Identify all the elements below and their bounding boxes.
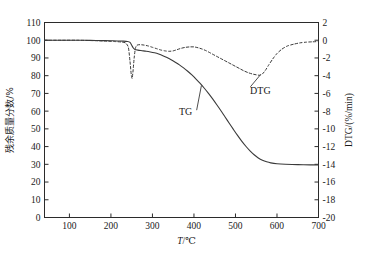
y-right-tick-label: -2 xyxy=(323,53,331,63)
y-axis-right-ticks xyxy=(315,23,319,218)
y-left-tick-label: 80 xyxy=(31,71,41,81)
dtg-curve xyxy=(45,40,319,78)
y-axis-right-title: DTG/(%/min) xyxy=(344,93,355,147)
y-left-tick-label: 0 xyxy=(36,213,41,223)
y-left-tick-label: 110 xyxy=(27,18,41,28)
y-axis-right-tick-labels: 20-2-4-6-8-10-12-14-16-18-20 xyxy=(323,18,336,223)
y-left-tick-label: 100 xyxy=(26,36,41,46)
x-tick-label: 300 xyxy=(145,221,160,231)
tg-leader-line xyxy=(197,85,202,110)
x-axis-tick-labels: 100200300400500600700 xyxy=(62,221,326,231)
y-left-tick-label: 20 xyxy=(31,177,41,187)
x-tick-label: 400 xyxy=(187,221,202,231)
y-axis-left-tick-labels: 0102030405060708090100110 xyxy=(26,18,41,223)
y-right-tick-label: -14 xyxy=(323,160,336,170)
y-right-tick-label: -10 xyxy=(323,124,336,134)
y-right-tick-label: 0 xyxy=(323,36,328,46)
y-right-tick-label: -4 xyxy=(323,71,331,81)
plot-frame xyxy=(45,23,319,218)
y-right-tick-label: -18 xyxy=(323,195,336,205)
y-axis-left-title: 残余质量分数/% xyxy=(4,87,15,153)
y-left-tick-label: 90 xyxy=(31,53,41,63)
y-right-tick-label: -8 xyxy=(323,107,331,117)
y-right-tick-label: -6 xyxy=(323,89,331,99)
x-tick-label: 200 xyxy=(104,221,119,231)
y-left-tick-label: 40 xyxy=(31,142,41,152)
y-right-tick-label: -12 xyxy=(323,142,336,152)
tg-series-label: TG xyxy=(179,106,192,117)
y-left-tick-label: 60 xyxy=(31,107,41,117)
x-tick-label: 500 xyxy=(228,221,243,231)
y-left-tick-label: 70 xyxy=(31,89,41,99)
tg-curve xyxy=(45,40,319,165)
y-left-tick-label: 50 xyxy=(31,124,41,134)
chart-figure: 100200300400500600700 010203040506070809… xyxy=(0,0,369,266)
x-tick-label: 600 xyxy=(270,221,285,231)
y-right-tick-label: -20 xyxy=(323,213,336,223)
y-axis-left-ticks xyxy=(45,23,49,218)
y-left-tick-label: 30 xyxy=(31,160,41,170)
y-left-tick-label: 10 xyxy=(31,195,41,205)
x-axis-title-unit: /℃ xyxy=(183,236,197,246)
y-right-tick-label: 2 xyxy=(323,18,328,28)
dtg-series-label: DTG xyxy=(250,85,271,96)
tg-dtg-chart-svg: 100200300400500600700 010203040506070809… xyxy=(0,0,369,266)
y-right-tick-label: -16 xyxy=(323,177,336,187)
x-axis-ticks xyxy=(69,214,318,218)
x-tick-label: 100 xyxy=(62,221,77,231)
